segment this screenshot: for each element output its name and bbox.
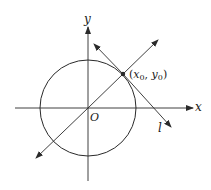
point-sep: ,: [145, 68, 152, 81]
origin-label: O: [90, 112, 99, 123]
diagram-canvas: [0, 0, 211, 190]
radial-line-extension: [36, 108, 88, 158]
x-axis-label: x: [195, 101, 202, 113]
y-axis-label: y: [84, 13, 91, 25]
tangent-point: [121, 72, 125, 76]
tangent-point-label: (x0, y0): [129, 69, 167, 82]
paren-close: ): [163, 68, 167, 81]
tangent-line-upper: [94, 44, 123, 74]
tangent-line-label: l: [158, 122, 162, 134]
